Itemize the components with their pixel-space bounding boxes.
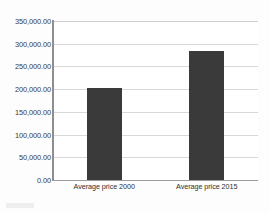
y-axis-tick-label: 50,000.00 [1, 153, 51, 162]
x-axis-line [52, 180, 258, 181]
y-axis-tick-labels: 0.0050,000.00100,000.00150,000.00200,000… [0, 0, 51, 213]
gridline [53, 157, 258, 158]
bar [189, 51, 224, 180]
x-axis-tick-label: Average price 2000 [53, 182, 156, 191]
gridline [53, 89, 258, 90]
y-axis-line [52, 20, 54, 181]
y-axis-tick-label: 150,000.00 [1, 107, 51, 116]
bar-chart: 0.0050,000.00100,000.00150,000.00200,000… [0, 0, 270, 213]
scan-artifact [6, 203, 34, 208]
gridline [53, 21, 258, 22]
gridline [53, 112, 258, 113]
y-axis-tick-label: 0.00 [1, 176, 51, 185]
y-axis-tick-label: 300,000.00 [1, 39, 51, 48]
y-axis-tick-label: 250,000.00 [1, 62, 51, 71]
plot-area [53, 21, 258, 180]
y-axis-tick-label: 350,000.00 [1, 17, 51, 26]
bar [87, 88, 122, 180]
y-axis-tick-label: 100,000.00 [1, 130, 51, 139]
x-axis-tick-label: Average price 2015 [156, 182, 259, 191]
y-axis-tick-label: 200,000.00 [1, 85, 51, 94]
gridline [53, 135, 258, 136]
gridline [53, 44, 258, 45]
gridline [53, 66, 258, 67]
